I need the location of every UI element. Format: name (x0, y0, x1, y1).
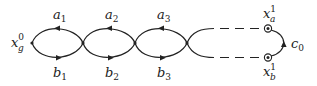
label-b3: b3 (157, 65, 171, 82)
label-b1: b1 (53, 65, 67, 82)
vertex-junction-3 (185, 41, 188, 44)
arrow-left-icon (54, 26, 60, 32)
open-curve-top (187, 29, 214, 44)
connector-c0 (271, 30, 284, 56)
arrow-right-icon (108, 55, 114, 61)
edge-b2 (83, 43, 135, 57)
vertex-base (30, 41, 33, 44)
label-b2: b2 (105, 65, 119, 82)
endpoint-top-marker (264, 25, 271, 32)
edge-a2 (83, 29, 135, 43)
endpoint-bottom-marker (264, 54, 271, 61)
arrow-right-icon (56, 55, 62, 61)
label-a2: a2 (105, 7, 119, 24)
arrow-up-icon (281, 41, 287, 47)
connector-label: c0 (291, 36, 304, 53)
edge-b1 (32, 43, 83, 57)
base-point-label: x0g (11, 32, 24, 53)
arrow-left-icon (106, 26, 112, 32)
label-a3: a3 (157, 7, 171, 24)
loop-2 (83, 26, 135, 61)
open-curve-bottom (187, 43, 214, 58)
arrow-left-icon (158, 26, 164, 32)
arrow-right-icon (160, 55, 166, 61)
edge-a1 (32, 29, 83, 43)
endpoint-bottom-label: x1b (263, 62, 276, 82)
endpoint-top-label: x1a (263, 4, 276, 24)
loop-1 (32, 26, 83, 61)
loop-3 (135, 26, 187, 61)
vertex-junction-2 (133, 41, 136, 44)
vertex-junction-1 (81, 41, 84, 44)
loop-chain-diagram: x0g a1 a2 a3 b1 b2 b3 x1a x1b c0 (0, 0, 317, 86)
edge-b3 (135, 43, 187, 57)
label-a1: a1 (53, 7, 67, 24)
edge-a3 (135, 29, 187, 43)
